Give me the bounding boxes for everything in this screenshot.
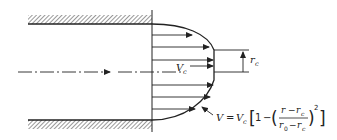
svg-text:c: c <box>255 60 259 68</box>
svg-text:−: − <box>288 105 296 115</box>
svg-text:−: − <box>289 120 297 130</box>
core-radius-dimension: r c <box>214 50 259 72</box>
svg-text:(: ( <box>271 108 278 128</box>
velocity-profile-diagram: V c r c V = V c [ 1 − ( r − r c r 0 − r … <box>0 0 337 140</box>
svg-text:c: c <box>183 68 187 76</box>
svg-text:]: ] <box>319 108 326 128</box>
svg-text:c: c <box>302 125 306 132</box>
formula-leader-arrow <box>202 107 213 115</box>
svg-text:0: 0 <box>284 125 288 132</box>
core-velocity-label: V c <box>176 62 187 76</box>
velocity-formula: V = V c [ 1 − ( r − r c r 0 − r c ) 2 ] <box>216 104 326 132</box>
svg-text:2: 2 <box>314 104 318 112</box>
svg-text:c: c <box>301 110 305 117</box>
svg-text:r: r <box>281 105 286 115</box>
svg-text:1: 1 <box>255 112 261 123</box>
svg-text:=: = <box>226 112 234 123</box>
svg-text:V: V <box>216 112 225 123</box>
svg-text:c: c <box>243 118 247 126</box>
top-pipe-wall <box>28 15 152 24</box>
bottom-pipe-wall <box>28 120 152 129</box>
